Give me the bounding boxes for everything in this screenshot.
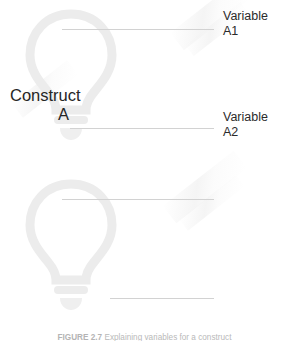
watermark-streak: [179, 175, 244, 230]
variable-label-line: A2: [223, 125, 289, 140]
connector-line-variable-a2: [70, 128, 214, 129]
figure-caption-text: Explaining variables for a construct: [104, 333, 231, 341]
variable-label-line: Variable: [223, 110, 289, 125]
variable-label-line: Variable: [223, 9, 289, 24]
watermark-streak: [163, 151, 247, 224]
figure-caption: FIGURE 2.7 Explaining variables for a co…: [0, 333, 289, 341]
construct-label-line1: Construct: [8, 86, 148, 105]
connector-line-variable-self-reported: [62, 199, 214, 200]
figure-caption-label: FIGURE 2.7: [58, 333, 103, 341]
connector-line-variable-a1: [62, 29, 214, 30]
variable-label-a2: Variable A2: [223, 110, 289, 140]
construct-label-line2: A: [8, 105, 148, 124]
construct-label-a: Construct A: [8, 86, 148, 124]
variable-label-a1: Variable A1: [223, 9, 289, 39]
connector-line-variable-provider-rated: [110, 298, 214, 299]
variable-label-line: A1: [223, 24, 289, 39]
